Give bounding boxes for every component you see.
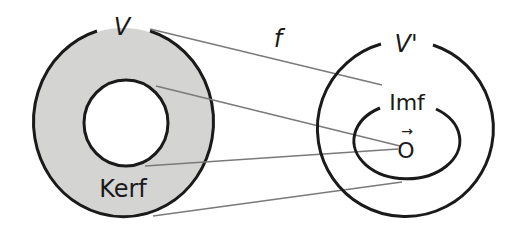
image-label: Imf	[389, 90, 426, 115]
domain-label: V	[114, 13, 132, 41]
domain-space-V: V Kerf	[33, 13, 213, 218]
domain-inner-circle	[84, 80, 168, 166]
zero-vector-arrow: →	[401, 123, 413, 139]
codomain-label: V'	[394, 30, 417, 58]
zero-vector-label: O	[397, 138, 414, 163]
codomain-space-V-prime: V' Imf → O	[317, 30, 493, 217]
map-label-f: f	[274, 25, 286, 53]
kernel-image-diagram: V Kerf f V' Imf → O	[0, 0, 527, 240]
kernel-label: Kerf	[99, 175, 147, 203]
